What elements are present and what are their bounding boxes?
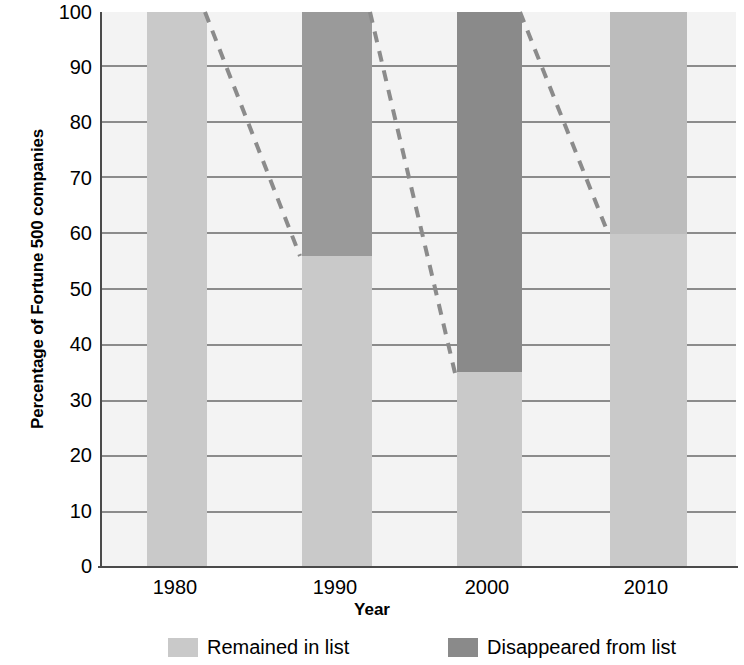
y-tick-80: 80 — [28, 112, 92, 132]
y-tick-90: 90 — [28, 57, 92, 77]
y-axis-tick-labels: 100 90 80 70 60 50 40 30 20 10 0 — [22, 0, 92, 580]
y-tick-70: 70 — [28, 168, 92, 188]
bar-2010-segment-disappeared — [610, 12, 687, 234]
y-tick-100: 100 — [28, 2, 92, 22]
y-tick-0: 0 — [28, 556, 92, 576]
bar-2000-segment-disappeared — [457, 12, 522, 372]
chart-figure: Percentage of Fortune 500 companies 100 … — [0, 0, 744, 665]
legend-label-remained: Remained in list — [207, 636, 349, 659]
x-axis-title: Year — [0, 600, 744, 620]
x-tick-2010: 2010 — [586, 576, 706, 599]
legend-item-disappeared: Disappeared from list — [448, 636, 676, 659]
plot-area — [100, 12, 736, 566]
bar-1990-segment-disappeared — [302, 12, 372, 256]
bar-1980-segment-remained — [147, 12, 207, 566]
chart-legend: Remained in list Disappeared from list — [0, 634, 744, 662]
x-axis-line — [98, 566, 738, 568]
bar-2010-segment-remained — [610, 234, 687, 566]
legend-label-disappeared: Disappeared from list — [487, 636, 676, 659]
legend-item-remained: Remained in list — [168, 636, 349, 659]
bar-2010 — [610, 12, 687, 566]
y-tick-40: 40 — [28, 334, 92, 354]
x-tick-2000: 2000 — [427, 576, 547, 599]
y-tick-10: 10 — [28, 501, 92, 521]
bar-2000 — [457, 12, 522, 566]
bar-1980 — [147, 12, 207, 566]
x-tick-1980: 1980 — [115, 576, 235, 599]
y-tick-50: 50 — [28, 279, 92, 299]
bar-1990 — [302, 12, 372, 566]
legend-swatch-disappeared-icon — [448, 638, 478, 657]
legend-swatch-remained-icon — [168, 638, 198, 657]
x-tick-1990: 1990 — [275, 576, 395, 599]
bar-2000-segment-remained — [457, 372, 522, 566]
y-tick-60: 60 — [28, 223, 92, 243]
bar-1990-segment-remained — [302, 256, 372, 566]
y-tick-20: 20 — [28, 445, 92, 465]
y-tick-30: 30 — [28, 390, 92, 410]
